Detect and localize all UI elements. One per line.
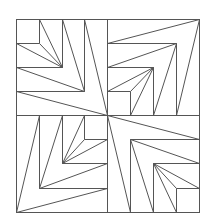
segment-line	[154, 44, 177, 116]
segment-line	[17, 92, 108, 116]
segment-line	[108, 116, 200, 140]
segment-line	[40, 164, 108, 189]
segment-line	[17, 189, 108, 213]
segment-line	[17, 44, 63, 68]
segment-line	[85, 20, 108, 116]
segment-line	[177, 20, 200, 116]
segment-line	[40, 116, 63, 189]
segment-line	[17, 68, 85, 92]
segment-line	[131, 140, 154, 213]
segment-line	[154, 164, 177, 189]
segment-line	[108, 68, 154, 92]
segment-line	[63, 140, 108, 164]
segment-line	[63, 20, 85, 92]
quilt-block-diagram	[0, 0, 214, 223]
quadrant-top-right	[108, 20, 200, 116]
segment-line	[108, 116, 131, 213]
segment-line	[131, 68, 154, 92]
segment-line	[131, 68, 154, 116]
quadrant-bottom-right	[108, 116, 200, 213]
segment-line	[154, 164, 200, 189]
segment-line	[63, 140, 85, 164]
segment-line	[40, 44, 63, 68]
segment-line	[131, 140, 200, 164]
quadrant-bottom-left	[17, 116, 108, 213]
segment-line	[40, 20, 63, 68]
segment-line	[63, 116, 85, 164]
quadrant-top-left	[17, 20, 108, 116]
segment-line	[108, 20, 200, 44]
segment-line	[154, 164, 177, 213]
segment-line	[17, 116, 40, 213]
segment-line	[108, 44, 177, 68]
